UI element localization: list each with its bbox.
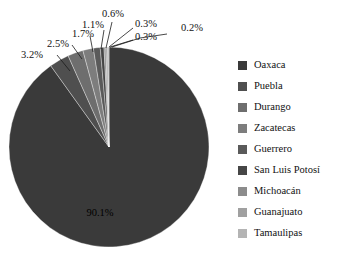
legend-swatch-icon <box>238 61 247 70</box>
legend-item-label: Durango <box>254 102 291 113</box>
chart-legend: Oaxaca Puebla Durango Zacatecas Guerrero… <box>238 55 362 244</box>
legend-item-durango[interactable]: Durango <box>238 97 362 118</box>
legend-item-tamaulipas[interactable]: Tamaulipas <box>238 223 362 244</box>
legend-item-label: Guerrero <box>254 144 292 155</box>
legend-item-michoacan[interactable]: Michoacán <box>238 181 362 202</box>
legend-item-label: San Luis Potosí <box>254 165 320 176</box>
pie-label-guanajuato: 0.3% <box>135 31 157 42</box>
legend-item-puebla[interactable]: Puebla <box>238 76 362 97</box>
legend-swatch-icon <box>238 208 247 217</box>
legend-item-label: Oaxaca <box>254 60 285 71</box>
legend-item-san-luis-potosi[interactable]: San Luis Potosí <box>238 160 362 181</box>
pie-label-durango: 2.5% <box>47 38 69 49</box>
legend-item-zacatecas[interactable]: Zacatecas <box>238 118 362 139</box>
pie-chart-figure: 90.1% 3.2% 2.5% 1.7% 1.1% 0.6% 0.3% 0.3%… <box>0 0 364 262</box>
legend-item-label: Michoacán <box>254 186 301 197</box>
pie-label-puebla: 3.2% <box>21 49 43 60</box>
legend-swatch-icon <box>238 187 247 196</box>
pie-label-san-luis-potosi: 0.6% <box>102 8 124 19</box>
legend-item-oaxaca[interactable]: Oaxaca <box>238 55 362 76</box>
legend-item-label: Zacatecas <box>254 123 295 134</box>
legend-swatch-icon <box>238 166 247 175</box>
legend-swatch-icon <box>238 229 247 238</box>
pie-label-guerrero: 1.1% <box>82 19 104 30</box>
legend-item-label: Tamaulipas <box>254 228 302 239</box>
leader-line-guerrero <box>101 30 104 49</box>
leader-line-san-luis-potosi <box>106 22 112 48</box>
legend-swatch-icon <box>238 145 247 154</box>
legend-item-guanajuato[interactable]: Guanajuato <box>238 202 362 223</box>
legend-swatch-icon <box>238 124 247 133</box>
pie-label-tamaulipas: 0.2% <box>181 22 203 33</box>
legend-swatch-icon <box>238 103 247 112</box>
legend-item-label: Puebla <box>254 81 283 92</box>
pie-label-oaxaca: 90.1% <box>86 207 113 218</box>
legend-item-label: Guanajuato <box>254 207 302 218</box>
legend-item-guerrero[interactable]: Guerrero <box>238 139 362 160</box>
pie-label-michoacan: 0.3% <box>135 18 157 29</box>
legend-swatch-icon <box>238 82 247 91</box>
